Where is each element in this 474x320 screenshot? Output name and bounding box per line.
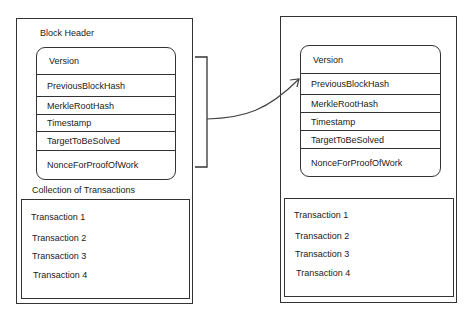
hash-link-connector [0, 0, 474, 320]
curved-arrow-icon [207, 79, 299, 119]
bracket-icon [195, 57, 207, 167]
